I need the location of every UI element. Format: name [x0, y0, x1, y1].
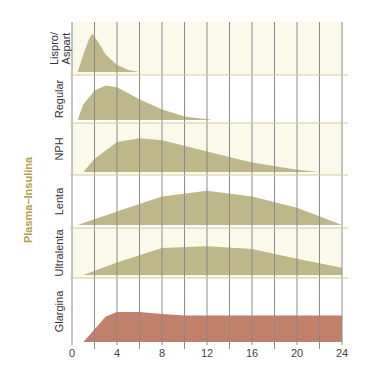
curve-glargina [83, 312, 342, 342]
x-tick-8: 8 [159, 347, 165, 359]
x-tick-12: 12 [201, 347, 213, 359]
label-nph: NPH [53, 137, 65, 160]
label-glargina: Glargina [53, 290, 65, 332]
insulin-type-labels: Lispro/AspartRegularNPHLentaUltralentaGl… [48, 31, 72, 332]
label-regular: Regular [53, 79, 65, 118]
x-tick-20: 20 [291, 347, 303, 359]
x-tick-24: 24 [336, 347, 348, 359]
insulin-profile-chart: Lispro/AspartRegularNPHLentaUltralentaGl… [0, 0, 367, 375]
label-lisproaspart: Lispro/Aspart [48, 31, 72, 65]
y-axis-title: Plasma–Insulina [22, 156, 34, 243]
label-ultralenta: Ultralenta [53, 229, 65, 277]
x-tick-4: 4 [114, 347, 120, 359]
x-tick-0: 0 [69, 347, 75, 359]
x-axis-tick-labels: 04812162024 [69, 347, 348, 359]
x-tick-16: 16 [246, 347, 258, 359]
label-lenta: Lenta [53, 187, 65, 215]
